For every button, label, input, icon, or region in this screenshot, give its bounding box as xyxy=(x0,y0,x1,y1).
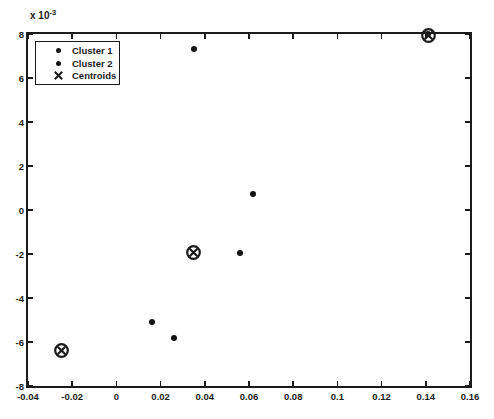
x-tick xyxy=(160,381,162,386)
x-tick xyxy=(381,381,383,386)
y-axis-exponent-label: x 10-3 xyxy=(30,8,56,21)
x-tick xyxy=(204,381,206,386)
y-tick xyxy=(28,341,33,343)
legend-entry: Centroids xyxy=(36,69,119,82)
centroid-marker xyxy=(53,342,70,359)
y-tick xyxy=(28,121,33,123)
x-tick-label: 0.12 xyxy=(372,391,391,402)
scatter-figure: x 10-3 -0.04-0.0200.020.040.060.080.10.1… xyxy=(0,0,494,419)
y-tick-mirror xyxy=(465,253,470,255)
x-tick xyxy=(337,381,339,386)
y-tick xyxy=(28,385,33,387)
y-tick-label: -2 xyxy=(0,249,24,260)
cluster1-point xyxy=(250,191,256,197)
legend-entry-label: Cluster 1 xyxy=(72,45,113,56)
centroid-marker xyxy=(420,27,437,44)
dot-glyph xyxy=(56,61,61,66)
x-tick-label: -0.02 xyxy=(61,391,83,402)
dot-marker-icon xyxy=(44,48,72,53)
x-tick xyxy=(71,381,73,386)
x-tick xyxy=(116,381,118,386)
y-tick-label: 0 xyxy=(0,205,24,216)
x-tick-label: 0.02 xyxy=(151,391,170,402)
y-tick-mirror xyxy=(465,165,470,167)
x-tick-mirror xyxy=(71,34,73,39)
dot-glyph xyxy=(56,48,61,53)
y-tick xyxy=(28,77,33,79)
y-tick-label: 6 xyxy=(0,73,24,84)
x-tick-mirror xyxy=(337,34,339,39)
x-tick-mirror xyxy=(204,34,206,39)
y-tick-mirror xyxy=(465,297,470,299)
y-tick-mirror xyxy=(465,121,470,123)
y-tick xyxy=(28,209,33,211)
x-tick-label: 0.1 xyxy=(331,391,344,402)
x-tick-label: 0.06 xyxy=(240,391,259,402)
x-tick-label: 0.14 xyxy=(417,391,436,402)
x-tick-label: 0.16 xyxy=(461,391,480,402)
y-tick-label: -4 xyxy=(0,293,24,304)
x-tick xyxy=(248,381,250,386)
exponent-base-text: x 10 xyxy=(30,10,49,21)
cluster1-point xyxy=(237,250,243,256)
centroid-marker xyxy=(185,244,202,261)
cluster2-point xyxy=(171,335,177,341)
y-tick-label: -8 xyxy=(0,381,24,392)
y-tick xyxy=(28,33,33,35)
x-tick-label: -0.04 xyxy=(17,391,39,402)
y-tick-mirror xyxy=(465,341,470,343)
x-tick-label: 0 xyxy=(114,391,119,402)
y-tick-mirror xyxy=(465,77,470,79)
x-tick-mirror xyxy=(292,34,294,39)
plot-area xyxy=(26,32,472,388)
x-glyph xyxy=(53,70,64,81)
legend-entry: Cluster 1 xyxy=(36,44,119,57)
x-tick-label: 0.04 xyxy=(196,391,215,402)
y-tick xyxy=(28,253,33,255)
y-tick xyxy=(28,165,33,167)
y-tick-label: 2 xyxy=(0,161,24,172)
x-tick-mirror xyxy=(160,34,162,39)
y-tick-mirror xyxy=(465,33,470,35)
x-tick-mirror xyxy=(381,34,383,39)
y-tick-label: 4 xyxy=(0,117,24,128)
x-tick-mirror xyxy=(248,34,250,39)
cluster1-point xyxy=(191,46,197,52)
x-tick xyxy=(425,381,427,386)
dot-marker-icon xyxy=(44,61,72,66)
y-tick-mirror xyxy=(465,209,470,211)
x-tick-mirror xyxy=(116,34,118,39)
y-tick-label: 8 xyxy=(0,29,24,40)
cluster2-point xyxy=(149,319,155,325)
x-tick xyxy=(292,381,294,386)
y-tick-label: -6 xyxy=(0,337,24,348)
y-tick-mirror xyxy=(465,385,470,387)
legend: Cluster 1Cluster 2Centroids xyxy=(35,41,120,85)
legend-entry-label: Cluster 2 xyxy=(72,58,113,69)
x-tick-label: 0.08 xyxy=(284,391,303,402)
y-tick xyxy=(28,297,33,299)
exponent-power-text: -3 xyxy=(49,8,56,17)
x-marker-icon xyxy=(44,70,72,81)
legend-entry-label: Centroids xyxy=(72,70,116,81)
legend-entry: Cluster 2 xyxy=(36,57,119,70)
